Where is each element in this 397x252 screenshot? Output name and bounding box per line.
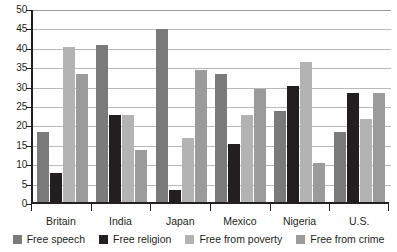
x-axis-tick-label: Britain — [46, 215, 76, 227]
x-axis-tick-label: U.S. — [349, 215, 369, 227]
y-axis: 50454035302520151050 — [0, 10, 31, 204]
x-axis-tick-label: Mexico — [223, 215, 256, 227]
cropped-title-strip — [0, 0, 397, 8]
bar — [274, 111, 286, 202]
x-axis-tick-mark — [388, 204, 389, 211]
bar — [109, 115, 121, 202]
bar — [334, 132, 346, 202]
bar — [50, 173, 62, 202]
bar-group — [92, 10, 151, 202]
bar — [195, 70, 207, 202]
x-axis-tick: India — [91, 204, 151, 228]
bar — [122, 115, 134, 202]
x-axis-tick-label: India — [109, 215, 132, 227]
x-axis-tick: Mexico — [210, 204, 270, 228]
plot-area — [31, 10, 389, 204]
legend-label: Free speech — [27, 233, 85, 245]
bar — [182, 138, 194, 202]
x-axis-tick-mark — [270, 204, 271, 211]
x-axis-tick-mark — [150, 204, 151, 211]
legend-swatch-icon — [13, 235, 22, 244]
x-axis-tick: U.S. — [329, 204, 389, 228]
legend-item[interactable]: Free religion — [99, 233, 171, 245]
bar — [287, 86, 299, 202]
bar-chart: 50454035302520151050 BritainIndiaJapanMe… — [0, 0, 397, 252]
bar — [215, 74, 227, 202]
bar — [241, 115, 253, 202]
bar — [373, 93, 385, 202]
legend-label: Free religion — [113, 233, 171, 245]
x-axis-tick-label: Japan — [166, 215, 195, 227]
bar — [347, 93, 359, 202]
bar — [300, 62, 312, 202]
x-axis-tick-mark — [210, 204, 211, 211]
bar — [96, 45, 108, 202]
x-axis-tick: Nigeria — [270, 204, 330, 228]
bar-group — [33, 10, 92, 202]
legend-swatch-icon — [296, 235, 305, 244]
bar-group — [152, 10, 211, 202]
legend-item[interactable]: Free speech — [13, 233, 85, 245]
legend-swatch-icon — [99, 235, 108, 244]
legend-item[interactable]: Free from crime — [296, 233, 384, 245]
bar — [63, 47, 75, 202]
legend-label: Free from crime — [310, 233, 384, 245]
bar — [76, 74, 88, 202]
legend-label: Free from poverty — [199, 233, 282, 245]
legend-item[interactable]: Free from poverty — [185, 233, 282, 245]
x-axis: BritainIndiaJapanMexicoNigeriaU.S. — [31, 204, 389, 228]
x-axis-tick-mark — [31, 204, 32, 211]
bar — [360, 119, 372, 202]
bar — [37, 132, 49, 202]
legend-swatch-icon — [185, 235, 194, 244]
bar-groups — [33, 10, 389, 202]
bar — [169, 190, 181, 202]
bar-group — [270, 10, 329, 202]
bar-group — [330, 10, 389, 202]
bar — [156, 29, 168, 202]
bar — [135, 150, 147, 202]
x-axis-tick: Japan — [150, 204, 210, 228]
x-axis-tick-label: Nigeria — [283, 215, 316, 227]
chart-legend: Free speechFree religionFree from povert… — [0, 230, 397, 248]
x-axis-tick: Britain — [31, 204, 91, 228]
bar — [313, 163, 325, 202]
x-axis-tick-mark — [91, 204, 92, 211]
bar-group — [211, 10, 270, 202]
bar — [254, 89, 266, 202]
x-axis-tick-mark — [329, 204, 330, 211]
bar — [228, 144, 240, 202]
